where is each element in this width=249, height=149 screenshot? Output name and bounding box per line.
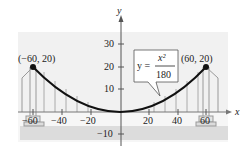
x-tick-label: −60 [22, 115, 38, 126]
x-tick-label: 20 [143, 115, 153, 126]
x-tick-label: 40 [172, 115, 182, 126]
x-axis-label: x [234, 106, 240, 117]
suspension-bridge-chart: x y 30 20 10 −10 −60 −40 −20 20 40 60 (−… [0, 0, 249, 149]
x-tick-label: −20 [80, 115, 96, 126]
y-axis-label: y [116, 5, 122, 16]
equation-denominator: 180 [156, 69, 171, 80]
point-right [203, 64, 209, 70]
ground-band [20, 126, 228, 140]
y-axis-arrow-icon [119, 15, 124, 22]
x-axis-arrow-icon [226, 110, 232, 115]
equation-numerator: x² [157, 52, 166, 63]
y-tick-label: 20 [104, 61, 114, 72]
x-tick-label: 60 [200, 115, 210, 126]
x-tick-label: −40 [51, 115, 67, 126]
point-right-label: (60, 20) [181, 53, 213, 65]
equation-prefix: y = [137, 60, 151, 71]
point-left-label: (−60, 20) [18, 53, 55, 65]
y-tick-label: 10 [104, 83, 114, 94]
y-tick-label: 30 [104, 38, 114, 49]
y-tick-label: −10 [97, 128, 113, 139]
point-left [30, 64, 36, 70]
